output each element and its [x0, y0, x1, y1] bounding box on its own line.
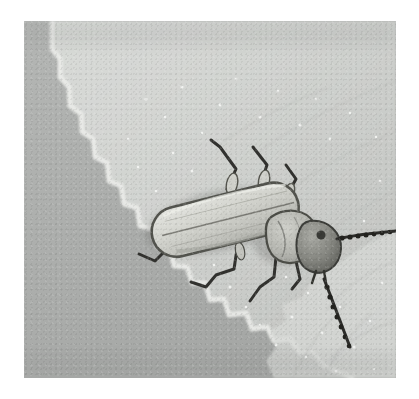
- photograph: [24, 21, 396, 378]
- photo-canvas: [24, 21, 396, 378]
- beetle-eye: [317, 231, 326, 240]
- screenshot-root: Black and white macro photograph of a pa…: [0, 0, 419, 399]
